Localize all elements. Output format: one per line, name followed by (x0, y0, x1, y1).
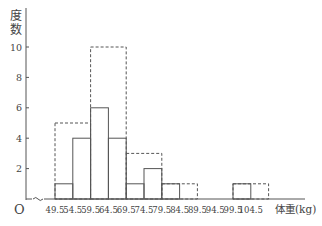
x-tick-label: 64.5 (99, 205, 118, 215)
solid-bar (162, 184, 180, 199)
x-axis-label: 体重(kg) (275, 203, 316, 215)
solid-bar (233, 184, 251, 199)
y-tick-label: 8 (16, 72, 22, 83)
y-tick-label: 2 (16, 163, 22, 174)
x-tick-label: 74.5 (135, 205, 154, 215)
solid-bar (144, 169, 162, 199)
y-tick-label: 4 (16, 133, 22, 144)
x-tick-label: 54.5 (63, 205, 82, 215)
solid-bar (91, 108, 109, 199)
x-tick-label: 59.5 (81, 205, 100, 215)
x-tick-label: 79.5 (152, 205, 171, 215)
x-tick-label: 49.5 (46, 205, 65, 215)
y-axis-label-1: 度 (10, 8, 22, 23)
solid-bar (108, 138, 126, 199)
x-tick-label: 84.5 (170, 205, 189, 215)
x-tick-label: 104.5 (239, 205, 263, 215)
axis-break-icon (33, 198, 43, 201)
solid-bar (126, 184, 144, 199)
solid-bar (55, 184, 73, 199)
x-tick-label: 94.5 (206, 205, 225, 215)
solid-bar (73, 138, 91, 199)
y-tick-label: 10 (10, 42, 22, 53)
y-tick-label: 6 (16, 102, 22, 113)
x-tick-label: 69.5 (117, 205, 136, 215)
histogram-chart: 24681049.554.559.564.569.574.579.584.589… (0, 0, 322, 226)
y-axis-label-2: 数 (10, 22, 22, 37)
origin-label: O (14, 202, 25, 217)
x-tick-label: 89.5 (188, 205, 207, 215)
